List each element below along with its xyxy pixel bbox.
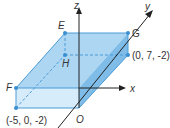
y-axis-label: y	[144, 1, 151, 12]
vertex-o-label: O	[76, 114, 84, 125]
coord-back-right: (0, 7, -2)	[132, 50, 170, 61]
vertex-e-label: E	[58, 20, 65, 31]
point-e	[63, 31, 67, 35]
point-f	[14, 86, 18, 90]
x-axis-arrow-icon	[119, 85, 126, 91]
x-axis-label: x	[129, 83, 136, 94]
point-g	[126, 31, 130, 35]
point-back-right	[126, 53, 130, 57]
vertex-f-label: F	[6, 82, 13, 93]
vertex-g-label: G	[132, 28, 140, 39]
point-h	[63, 53, 67, 57]
cuboid-diagram: z x y E H G F O (0, 7, -2) (-5, 0, -2)	[0, 0, 170, 128]
coord-bottom-left: (-5, 0, -2)	[6, 115, 47, 126]
vertex-h-label: H	[62, 58, 70, 69]
front-face	[16, 88, 79, 108]
point-bottom-left	[14, 106, 18, 110]
z-axis-label: z	[73, 0, 79, 11]
